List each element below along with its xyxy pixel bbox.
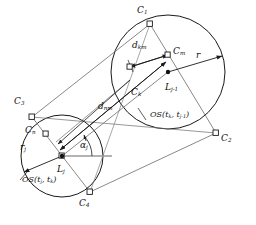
center-dot-lj-1 — [166, 70, 170, 74]
label-lj-minus-1: Lj-1 — [165, 83, 178, 93]
label-os-right: OS(tk, tj-1) — [150, 111, 189, 119]
geometry-diagram-svg — [0, 0, 256, 225]
leader-os-right — [138, 108, 146, 120]
label-c2: C2 — [221, 134, 231, 144]
corner-square-c2 — [213, 130, 218, 135]
label-cm: Cm — [173, 47, 185, 57]
label-c3: C3 — [14, 97, 24, 107]
corner-square-c1 — [147, 21, 152, 26]
label-c1: C1 — [137, 6, 147, 16]
label-r-right: r — [196, 51, 200, 60]
label-dkm: dkm — [132, 41, 146, 51]
label-cn: Cn — [25, 126, 35, 136]
label-rj-left: rj — [20, 143, 26, 153]
cn-to-ck-guide-arrow — [58, 80, 130, 144]
corner-square-c4 — [87, 189, 92, 194]
dnm-measure-line-back — [60, 62, 166, 150]
corner-square-ck — [127, 64, 132, 69]
right-radius-line — [168, 56, 222, 72]
label-alpha-j: αj — [80, 141, 88, 151]
corner-square-cn — [43, 131, 48, 136]
label-os-left: OS(tj, tk) — [22, 176, 56, 184]
center-dot-lj — [60, 154, 64, 158]
label-c4: C4 — [79, 199, 89, 209]
corner-square-c3 — [29, 114, 34, 119]
label-ck: Ck — [131, 88, 141, 98]
label-dnm: dnm — [98, 102, 113, 112]
diagram-canvas-container: C1 C2 C3 C4 Cm Ck Cn dkm dnm r rj Lj-1 L… — [0, 0, 256, 225]
label-lj: Lj — [57, 165, 65, 175]
corner-square-cm — [165, 52, 170, 57]
tangent-line-lower — [90, 133, 216, 192]
